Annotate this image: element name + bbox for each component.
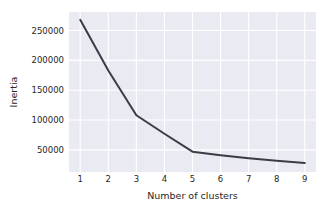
x-axis-tick-labels: 123456789 <box>69 175 316 189</box>
y-axis-title: Inertia <box>6 12 20 172</box>
x-axis-tick-label: 6 <box>218 175 223 184</box>
inertia-line <box>80 20 305 163</box>
plot-area <box>69 12 316 172</box>
x-axis-tick-label: 8 <box>274 175 279 184</box>
x-axis-tick-label: 1 <box>78 175 83 184</box>
inertia-line-series <box>69 12 316 172</box>
x-axis-tick-label: 2 <box>106 175 111 184</box>
x-axis-tick-label: 3 <box>134 175 139 184</box>
x-axis-tick-label: 4 <box>162 175 167 184</box>
y-axis-title-text: Inertia <box>8 77 19 108</box>
x-axis-tick-label: 5 <box>190 175 195 184</box>
x-axis-tick-label: 7 <box>246 175 251 184</box>
x-axis-title: Number of clusters <box>69 190 316 201</box>
elbow-plot-figure: 50000100000150000200000250000 Inertia 12… <box>0 0 330 215</box>
x-axis-tick-label: 9 <box>302 175 307 184</box>
